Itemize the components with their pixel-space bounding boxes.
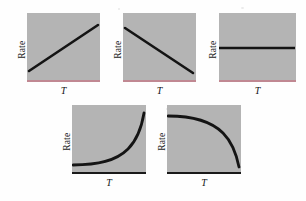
curve-svg	[123, 13, 196, 82]
curve-linear-decrease	[125, 28, 193, 73]
panel-linear-increase: Rate T	[14, 13, 106, 95]
panel-linear-decrease: Rate T	[110, 13, 202, 95]
plot-area	[167, 105, 241, 174]
curve-svg	[167, 105, 241, 174]
x-axis-label: T	[219, 86, 296, 96]
scan-speck	[118, 8, 120, 10]
figure-root: Rate T Rate T Rate T Rate	[0, 0, 306, 201]
plot-area	[27, 13, 100, 82]
plot-area	[219, 13, 296, 82]
panel-constant: Rate T	[206, 13, 301, 95]
curve-linear-increase	[29, 25, 98, 71]
x-axis-label: T	[123, 86, 196, 96]
curve-svg	[27, 13, 100, 82]
panel-exponential-decrease: Rate T	[154, 105, 246, 187]
plot-area	[72, 105, 146, 174]
curve-svg	[219, 13, 296, 82]
curve-exponential-decrease	[168, 116, 239, 167]
curve-svg	[72, 105, 146, 174]
x-axis-label: T	[27, 86, 100, 96]
scan-speck	[241, 7, 244, 9]
y-axis-label: Rate	[209, 33, 219, 67]
plot-area	[123, 13, 196, 82]
x-axis-label: T	[167, 178, 241, 188]
x-axis-label: T	[72, 178, 146, 188]
curve-exponential-increase	[73, 113, 144, 165]
panel-exponential-increase: Rate T	[59, 105, 151, 187]
